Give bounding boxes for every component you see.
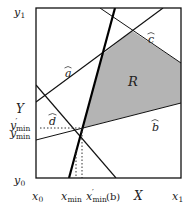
svg-text:min: min	[16, 132, 31, 141]
svg-text:min: min	[93, 195, 108, 204]
label-xmin-prime-b: x ′ min (b)	[86, 187, 120, 204]
label-a: a	[65, 67, 72, 81]
svg-text:0: 0	[21, 179, 26, 188]
svg-text:d: d	[49, 115, 56, 128]
label-c: c	[148, 33, 155, 47]
svg-text:a: a	[65, 67, 72, 80]
label-y1: y 1	[13, 6, 25, 20]
label-y0: y 0	[13, 174, 26, 188]
label-X: X	[133, 189, 143, 203]
label-Y: Y	[16, 102, 25, 116]
svg-text:1: 1	[179, 195, 184, 204]
region-label: R	[127, 74, 138, 89]
label-x1: x 1	[172, 190, 183, 204]
svg-text:(b): (b)	[106, 191, 120, 202]
label-b: b	[152, 120, 160, 135]
svg-text:min: min	[68, 195, 83, 204]
svg-text:b: b	[152, 121, 159, 134]
diagram-figure: R a c d b y 1 Y y ′ min y min y 0 x 0 x …	[0, 0, 193, 207]
label-x0: x 0	[32, 190, 44, 204]
label-d: d	[49, 114, 57, 129]
svg-text:0: 0	[39, 195, 44, 204]
svg-text:c: c	[148, 33, 154, 46]
label-xmin: x min	[61, 190, 82, 204]
svg-text:1: 1	[21, 11, 26, 20]
